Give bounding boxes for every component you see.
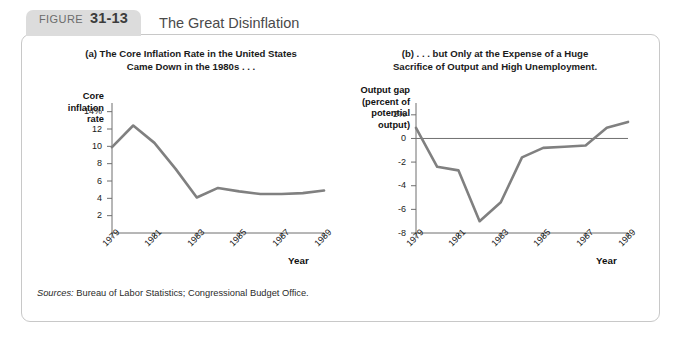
figure-badge-word: FIGURE: [39, 13, 83, 25]
figure-title: The Great Disinflation: [159, 15, 299, 31]
chart-a-caption: (a) The Core Inflation Rate in the Unite…: [36, 47, 346, 73]
svg-b-y-tick-label: 2%: [372, 110, 406, 119]
svg-b-y-tick-label: -6: [372, 205, 406, 214]
svg-b-y-tick-label: -2: [372, 158, 406, 167]
svg-b-y-tick-label: -4: [372, 181, 406, 190]
chart-a-caption-line2: Came Down in the 1980s . . .: [42, 60, 340, 73]
svg-a-y-tick-label: 10: [68, 142, 102, 151]
svg-a-y-tick-label: 6: [68, 177, 102, 186]
chart-b-x-axis-title: Year: [596, 255, 617, 266]
figure-badge-number: 31-13: [90, 10, 128, 26]
figure-header: FIGURE 31-13 The Great Disinflation: [26, 10, 299, 36]
figure-badge: FIGURE 31-13: [26, 10, 141, 36]
svg-b-y-tick-label: -8: [372, 229, 406, 238]
chart-b-caption-line2: Sacrifice of Output and High Unemploymen…: [346, 60, 644, 73]
chart-b-caption-line1: (b) . . . but Only at the Expense of a H…: [346, 47, 644, 60]
svg-a-y-tick-label: 8: [68, 159, 102, 168]
svg-a-y-tick-label: 4: [68, 194, 102, 203]
svg-b-data-line: [416, 122, 628, 221]
chart-a-x-axis-title: Year: [288, 255, 309, 266]
sources-label: Sources:: [37, 288, 74, 298]
svg-a-y-tick-label: 2: [68, 211, 102, 220]
figure-panel: (a) The Core Inflation Rate in the Unite…: [21, 34, 660, 322]
svg-a-y-tick-label: 14%: [68, 107, 102, 116]
chart-b-caption: (b) . . . but Only at the Expense of a H…: [340, 47, 650, 73]
svg-a-y-tick-label: 12: [68, 125, 102, 134]
chart-a-plot: Core inflation rate Year 14%121086421979…: [36, 77, 346, 273]
chart-b-y-axis-title: Output gap (percent of potential output): [342, 85, 410, 131]
chart-panel-a: (a) The Core Inflation Rate in the Unite…: [36, 47, 346, 279]
chart-a-caption-line1: (a) The Core Inflation Rate in the Unite…: [42, 47, 340, 60]
sources-note: Sources: Bureau of Labor Statistics; Con…: [37, 288, 309, 298]
svg-a-data-line: [112, 126, 324, 198]
svg-b-y-tick-label: 0: [372, 134, 406, 143]
chart-b-plot: Output gap (percent of potential output)…: [340, 77, 650, 273]
chart-panel-b: (b) . . . but Only at the Expense of a H…: [340, 47, 650, 279]
sources-text: Bureau of Labor Statistics; Congressiona…: [76, 288, 308, 298]
